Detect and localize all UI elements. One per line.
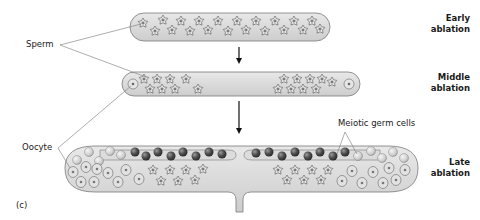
stage-middle-line1: Middle <box>400 72 470 83</box>
panel-label: (c) <box>16 200 27 210</box>
oocyte-label: Oocyte <box>22 142 52 152</box>
stage-late-line2: ablation <box>400 168 470 179</box>
stage-label-early: Early ablation <box>400 13 470 35</box>
stage-middle-line2: ablation <box>400 83 470 94</box>
stage-label-late: Late ablation <box>400 157 470 179</box>
stage-early-line2: ablation <box>400 24 470 35</box>
arrow-early-to-middle <box>236 47 242 64</box>
early-ablation-gonad <box>130 13 330 41</box>
oocyte-right <box>344 79 354 89</box>
stage-late-line1: Late <box>400 157 470 168</box>
arrow-middle-to-late <box>236 101 242 134</box>
stage-label-middle: Middle ablation <box>400 72 470 94</box>
stage-early-line1: Early <box>400 13 470 24</box>
late-ablation-gonad <box>65 146 418 212</box>
sperm-label: Sperm <box>26 39 54 49</box>
meiotic-germ-cells-label: Meiotic germ cells <box>338 118 415 128</box>
middle-ablation-gonad <box>122 72 360 96</box>
